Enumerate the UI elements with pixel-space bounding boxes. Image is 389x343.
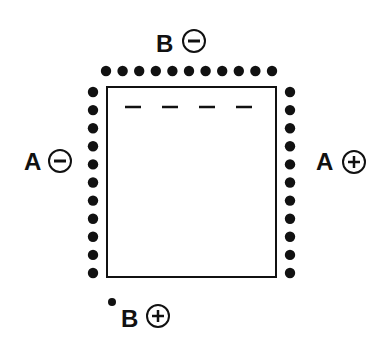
center-panel [107, 87, 276, 277]
dot [88, 105, 98, 115]
dot [285, 105, 295, 115]
dot [184, 66, 194, 76]
dot [285, 123, 295, 133]
label-letter: B [156, 30, 173, 57]
dot [285, 159, 295, 169]
dot [285, 232, 295, 242]
dot [88, 214, 98, 224]
dot [151, 66, 161, 76]
dot [267, 66, 277, 76]
dot [88, 159, 98, 169]
dot [285, 87, 295, 97]
dot [285, 250, 295, 260]
label-letter: B [121, 305, 138, 332]
dot [234, 66, 244, 76]
label-right-a-plus: A [316, 148, 365, 175]
label-letter: A [24, 148, 41, 175]
label-bottom-b-plus: B [121, 305, 169, 332]
dot [101, 66, 111, 76]
dot [250, 66, 260, 76]
dot [88, 195, 98, 205]
dot [285, 195, 295, 205]
dot [217, 66, 227, 76]
label-top-b-minus: B [156, 30, 205, 57]
bottom-single-dot [108, 298, 116, 306]
dot [285, 268, 295, 278]
dot [88, 232, 98, 242]
right-dot-column [285, 87, 295, 278]
label-letter: A [316, 148, 333, 175]
left-dot-column [88, 87, 98, 278]
diagram-canvas: B A A B [0, 0, 389, 343]
dot [167, 66, 177, 76]
dot [200, 66, 210, 76]
magnet-field-diagram: B A A B [0, 0, 389, 343]
dot [88, 177, 98, 187]
dot [117, 66, 127, 76]
dot [88, 250, 98, 260]
dot [88, 141, 98, 151]
dot [134, 66, 144, 76]
dot [285, 177, 295, 187]
label-left-a-minus: A [24, 148, 71, 175]
dot [88, 123, 98, 133]
dot [285, 214, 295, 224]
dot [88, 268, 98, 278]
dot [285, 141, 295, 151]
top-dot-row [101, 66, 277, 76]
dot [88, 87, 98, 97]
